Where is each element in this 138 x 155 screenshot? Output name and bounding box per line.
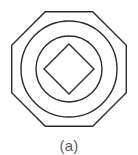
figure-panel: (a) [0, 0, 138, 155]
figure-caption: (a) [0, 136, 138, 155]
inner-circle-shape [36, 36, 102, 102]
inner-diamond-shape [44, 44, 94, 94]
nested-shapes-diagram [0, 0, 138, 137]
outer-octagon-shape [12, 12, 127, 127]
